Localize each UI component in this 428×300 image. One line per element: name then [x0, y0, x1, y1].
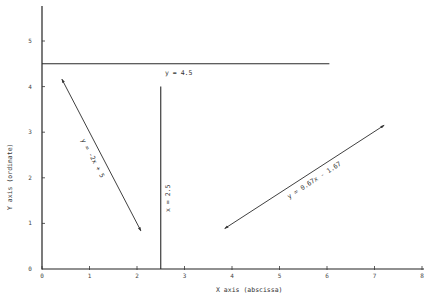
label-y-4-5: y = 4.5	[165, 69, 192, 77]
x-tick-label: 7	[373, 272, 377, 279]
x-tick-label: 4	[230, 272, 234, 279]
label-x-2-5: x = 2.5	[164, 185, 172, 212]
y-tick-label: 3	[28, 128, 32, 135]
label-y-neg-2x-5: y = -2x + 5	[79, 137, 106, 179]
series-line	[225, 125, 384, 228]
y-tick-label: 0	[28, 265, 32, 272]
label-y-0-67x: y = 0.67x - 1.67	[286, 160, 343, 201]
x-axis-title: X axis (abscissa)	[216, 286, 283, 294]
x-ticks: 012345678	[40, 266, 424, 279]
y-tick-label: 4	[28, 83, 32, 90]
y-tick-label: 2	[28, 174, 32, 181]
x-tick-label: 5	[278, 272, 282, 279]
line-chart: 012345678 012345 y = 4.5 x = 2.5 y = -2x…	[0, 0, 428, 300]
y-tick-label: 1	[28, 219, 32, 226]
x-tick-label: 2	[135, 272, 139, 279]
x-tick-label: 0	[40, 272, 44, 279]
y-tick-label: 5	[28, 37, 32, 44]
y-axis-title: Y axis (ordinate)	[6, 143, 14, 210]
x-tick-label: 6	[325, 272, 329, 279]
x-tick-label: 3	[183, 272, 187, 279]
series-line	[62, 79, 141, 230]
axes	[42, 6, 424, 269]
x-tick-label: 1	[88, 272, 92, 279]
x-tick-label: 8	[420, 272, 424, 279]
